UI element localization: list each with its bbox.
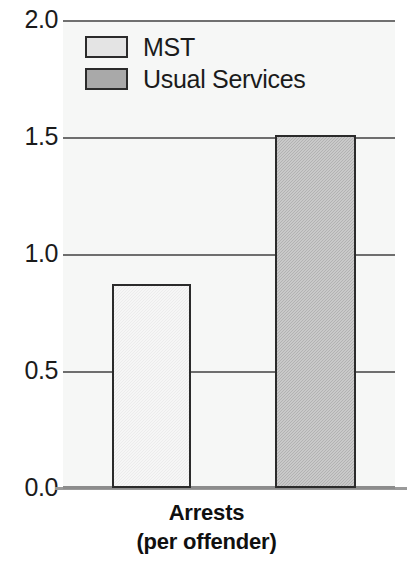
legend-swatch-mst-icon bbox=[85, 36, 128, 58]
gridline-2.0 bbox=[63, 20, 395, 22]
bar-usual-services[interactable] bbox=[275, 135, 356, 488]
y-tick-label-0.0: 0.0 bbox=[2, 475, 58, 500]
plot-area: MST Usual Services bbox=[63, 20, 395, 488]
legend-label-mst: MST bbox=[143, 34, 195, 60]
y-tick-label-2.0: 2.0 bbox=[2, 7, 58, 32]
legend-swatch-usual-services-icon bbox=[85, 68, 128, 90]
y-tick-label-0.5: 0.5 bbox=[2, 358, 58, 383]
legend: MST Usual Services bbox=[85, 32, 303, 96]
legend-label-usual-services: Usual Services bbox=[143, 66, 306, 92]
bar-chart-figure: 2.0 1.5 1.0 0.5 0.0 MST Usual Services bbox=[0, 0, 413, 566]
y-tick-label-1.0: 1.0 bbox=[2, 241, 58, 266]
x-axis-caption-line-1: Arrests bbox=[0, 498, 413, 527]
x-axis-caption: Arrests (per offender) bbox=[0, 498, 413, 556]
bar-mst[interactable] bbox=[112, 284, 191, 488]
legend-item-mst[interactable]: MST bbox=[85, 32, 303, 62]
y-axis-tick-labels: 2.0 1.5 1.0 0.5 0.0 bbox=[0, 0, 58, 566]
x-axis-caption-line-2: (per offender) bbox=[0, 527, 413, 556]
legend-item-usual-services[interactable]: Usual Services bbox=[85, 64, 303, 94]
y-tick-label-1.5: 1.5 bbox=[2, 124, 58, 149]
